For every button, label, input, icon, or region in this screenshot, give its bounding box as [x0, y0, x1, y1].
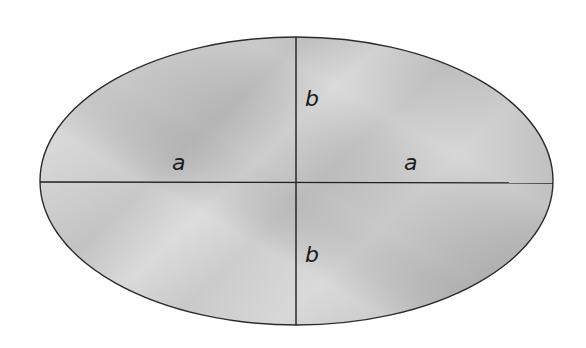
label-semi-minor-bottom: b: [305, 242, 319, 267]
label-semi-minor-top: b: [305, 86, 319, 111]
label-semi-major-right: a: [404, 150, 417, 175]
label-semi-major-left: a: [172, 150, 185, 175]
ellipse-diagram: a a b b: [0, 0, 586, 348]
